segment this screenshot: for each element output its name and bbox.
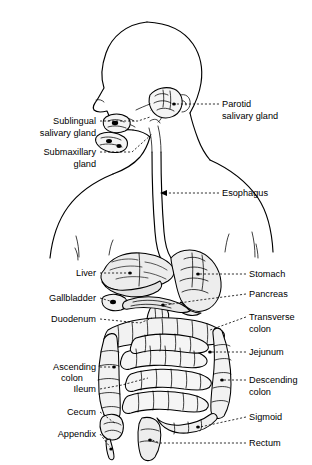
label-descending-colon-line2: colon [249, 387, 271, 397]
label-gallbladder: Gallbladder [49, 293, 96, 303]
label-transverse-colon-line1: Transverse [249, 312, 295, 322]
label-descending-colon-line1: Descending [249, 375, 298, 385]
label-sigmoid: Sigmoid [249, 412, 282, 422]
label-parotid-line2: salivary gland [222, 111, 278, 121]
sublingual-submaxillary-glands [96, 114, 131, 153]
label-pancreas: Pancreas [249, 289, 288, 299]
label-rectum: Rectum [249, 438, 281, 448]
label-ileum: Ileum [74, 384, 97, 394]
leader-rectum [152, 440, 246, 443]
body-outline [50, 22, 273, 260]
leader-transverse-colon [210, 317, 246, 330]
label-transverse-colon-line2: colon [249, 324, 271, 334]
digestive-system-diagram: Parotid salivary gland Esophagus Stomach… [0, 0, 312, 465]
label-duodenum: Duodenum [51, 314, 96, 324]
label-liver: Liver [76, 268, 96, 278]
label-appendix: Appendix [58, 429, 97, 439]
label-ascending-colon-line2: colon [61, 373, 83, 383]
small-intestine [120, 334, 211, 413]
esophagus [152, 152, 171, 261]
label-cecum: Cecum [67, 407, 96, 417]
label-parotid-line1: Parotid [222, 99, 251, 109]
liver [101, 253, 174, 297]
label-submaxillary-line2: gland [74, 159, 96, 169]
label-sublingual-line2: salivary gland [40, 128, 96, 138]
label-sublingual-line1: Sublingual [53, 116, 96, 126]
label-stomach: Stomach [249, 269, 285, 279]
label-ascending-colon-line1: Ascending [53, 362, 96, 372]
label-esophagus: Esophagus [222, 188, 268, 198]
label-submaxillary-line1: Submaxillary [43, 147, 96, 157]
label-jejunum: Jejunum [249, 347, 284, 357]
